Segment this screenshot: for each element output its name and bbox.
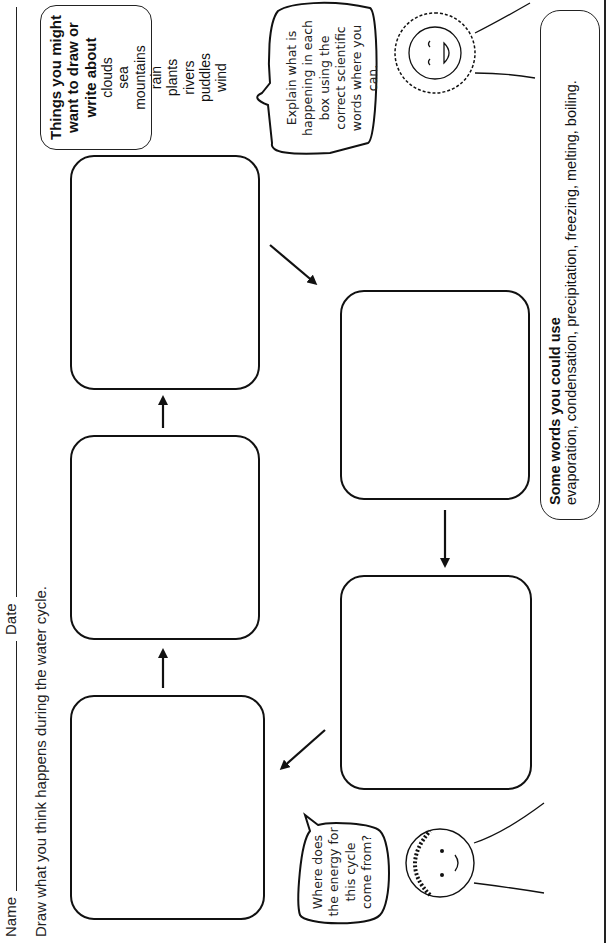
things-item: puddles (197, 10, 213, 145)
word-bank-title: Some words you could use (547, 25, 563, 505)
things-item: wind (213, 10, 229, 145)
girl-character-icon (395, 3, 535, 93)
things-to-draw-box: Things you might want to draw or write a… (40, 5, 152, 150)
footer-rule (604, 0, 606, 943)
things-item: plants (164, 10, 180, 145)
word-bank-box: Some words you could use evaporation, co… (540, 10, 600, 520)
worksheet-page: Name Date Draw what you think happens du… (0, 0, 608, 943)
things-item: sea (115, 10, 131, 145)
boy-character-icon (406, 803, 544, 897)
things-item: clouds (99, 10, 115, 145)
speech-bubble-explain: Explain what is happening in each box us… (284, 13, 382, 143)
arrow-diagonal-icon (282, 730, 325, 768)
word-bank-list: evaporation, condensation, precipitation… (563, 25, 579, 505)
things-item: rivers (181, 10, 197, 145)
arrow-diagonal-icon (270, 245, 315, 283)
speech-bubble-energy: Where does the energy for this cycle com… (310, 827, 375, 917)
things-item: rain (148, 10, 164, 145)
things-item: mountains (132, 10, 148, 145)
things-box-title: Things you might want to draw or write a… (47, 10, 99, 145)
